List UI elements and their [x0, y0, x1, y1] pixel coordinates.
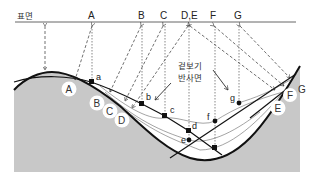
svg-text:D: D: [118, 115, 125, 126]
circle-label-g: G: [298, 84, 306, 95]
point-e-marker: [187, 138, 192, 143]
point-b-marker: [139, 101, 144, 106]
point-c-label: c: [170, 105, 175, 115]
circle-label-f: F: [283, 88, 297, 102]
surface-point-g: G: [234, 10, 242, 21]
point-d-marker: [186, 128, 191, 133]
point-a-marker: [89, 79, 94, 84]
bottom-marker: [212, 145, 217, 150]
point-f-label: f: [207, 112, 210, 122]
svg-text:C: C: [106, 106, 113, 117]
svg-text:A: A: [66, 84, 73, 95]
surface-point-f: F: [210, 10, 216, 21]
svg-text:B: B: [94, 98, 101, 109]
surface-point-c: C: [160, 10, 167, 21]
circle-label-c: C: [103, 104, 118, 119]
circle-label-a: A: [62, 82, 77, 97]
surface-label: 표면: [17, 11, 33, 21]
point-f-marker: [213, 119, 218, 124]
svg-text:E: E: [275, 103, 282, 114]
surface-point-b: B: [138, 10, 145, 21]
circle-label-e: E: [271, 101, 286, 116]
ground-region: [14, 66, 300, 172]
surface-point-de: D,E: [181, 10, 198, 21]
seismic-reflection-diagram: 표면 A B C D,E F G 겉보기 반사면 a b c d e f g A…: [0, 0, 310, 179]
svg-text:F: F: [287, 90, 293, 101]
point-e-label: e: [181, 135, 186, 145]
point-a-label: a: [96, 72, 101, 82]
point-c-marker: [162, 113, 167, 118]
reflector-label-1: 겉보기: [178, 61, 202, 71]
point-g-label: g: [230, 93, 235, 103]
surface-point-a: A: [88, 10, 95, 21]
reflector-label-2: 반사면: [178, 73, 202, 83]
point-b-label: b: [146, 92, 151, 102]
pointer-arrow: [155, 83, 171, 100]
point-g-marker: [237, 101, 242, 106]
circle-label-d: D: [115, 113, 130, 128]
point-d-label: d: [192, 121, 197, 131]
circle-label-b: B: [90, 96, 105, 111]
